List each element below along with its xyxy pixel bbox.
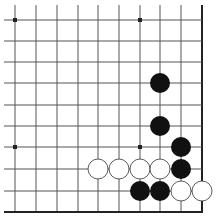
black-stone[interactable] [150,181,170,201]
black-stone[interactable] [150,73,170,93]
black-stone[interactable] [130,181,150,201]
black-stone[interactable] [171,137,191,157]
grid-lines [4,5,203,212]
white-stone[interactable] [150,159,170,179]
white-stone[interactable] [88,159,108,179]
white-stone[interactable] [192,181,212,201]
star-point [13,18,17,22]
go-board[interactable] [0,0,217,222]
black-stone[interactable] [171,159,191,179]
white-stone[interactable] [109,159,129,179]
stones [88,73,212,201]
star-point [138,145,142,149]
white-stone[interactable] [171,181,191,201]
black-stone[interactable] [150,116,170,136]
white-stone[interactable] [130,159,150,179]
star-point [13,145,17,149]
star-point [138,18,142,22]
